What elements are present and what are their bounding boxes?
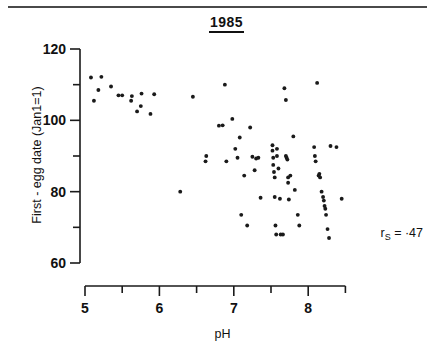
data-point [191, 95, 195, 99]
data-point [92, 99, 96, 103]
data-point [139, 104, 143, 108]
data-point [318, 175, 322, 179]
data-point [287, 198, 291, 202]
data-point [271, 149, 275, 153]
data-point [291, 134, 295, 138]
data-point [284, 98, 288, 102]
scatter-points [89, 75, 344, 240]
y-tick-label: 100 [43, 112, 67, 128]
data-point [89, 76, 93, 80]
data-point [242, 174, 246, 178]
x-tick-label: 7 [230, 300, 238, 316]
data-point [273, 195, 277, 199]
data-point [322, 199, 326, 203]
data-point [109, 85, 113, 89]
data-point [152, 92, 156, 96]
data-point [293, 188, 297, 192]
data-point [96, 88, 100, 92]
data-point [275, 154, 279, 158]
data-point [340, 197, 344, 201]
data-point [248, 126, 252, 130]
data-point [321, 195, 325, 199]
data-point [315, 81, 319, 85]
data-point [324, 213, 328, 217]
data-point [278, 197, 282, 201]
data-point [314, 159, 318, 163]
data-point [286, 181, 290, 185]
y-tick-label: 60 [50, 255, 66, 271]
data-point [253, 168, 257, 172]
data-point [275, 147, 279, 151]
data-point [312, 145, 316, 149]
data-point [277, 167, 281, 171]
data-point [129, 99, 133, 103]
data-point [273, 175, 277, 179]
data-point [230, 117, 234, 121]
data-point [117, 93, 121, 97]
data-point [99, 75, 103, 79]
x-tick-label: 5 [81, 300, 89, 316]
data-point [245, 224, 249, 228]
data-point [274, 224, 278, 228]
data-point [120, 93, 124, 97]
data-point [250, 155, 254, 159]
data-point [271, 156, 275, 160]
data-point [297, 224, 301, 228]
data-point [335, 145, 339, 149]
data-point [256, 156, 260, 160]
data-point [149, 112, 153, 116]
data-point [329, 144, 333, 148]
data-point [323, 207, 327, 211]
data-point [288, 174, 292, 178]
data-point [326, 227, 330, 231]
x-tick-label: 8 [304, 300, 312, 316]
data-point [271, 143, 275, 147]
data-point [224, 159, 228, 163]
data-point [317, 172, 321, 176]
x-tick-label: 6 [156, 300, 164, 316]
data-point [140, 92, 144, 96]
data-point [274, 233, 278, 237]
data-point [285, 158, 289, 162]
data-point [238, 136, 242, 140]
data-point [271, 163, 275, 167]
y-axis: 6080100120 [43, 41, 80, 271]
data-point [327, 236, 331, 240]
data-point [204, 154, 208, 158]
plot-canvas: 6080100120 5678 [0, 0, 435, 355]
data-point [130, 94, 134, 98]
data-point [313, 154, 317, 158]
data-point [320, 190, 324, 194]
y-tick-label: 80 [50, 184, 66, 200]
data-point [236, 156, 240, 160]
chart-figure: 1985 First - egg date (Jan1=1) pH rS = ·… [0, 0, 435, 355]
data-point [217, 124, 221, 128]
data-point [296, 213, 300, 217]
x-axis: 5678 [81, 286, 345, 316]
data-point [221, 123, 225, 127]
data-point [233, 147, 237, 151]
data-point [281, 233, 285, 237]
data-point [178, 190, 182, 194]
data-point [272, 170, 276, 174]
data-point [259, 196, 263, 200]
data-point [135, 109, 139, 113]
data-point [204, 159, 208, 163]
data-point [282, 86, 286, 90]
data-point [239, 213, 243, 217]
y-tick-label: 120 [43, 41, 67, 57]
data-point [223, 83, 227, 87]
